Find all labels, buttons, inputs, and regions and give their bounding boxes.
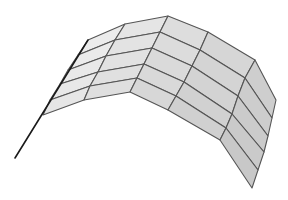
surface-plot bbox=[0, 0, 288, 200]
surface-figure bbox=[0, 0, 288, 200]
